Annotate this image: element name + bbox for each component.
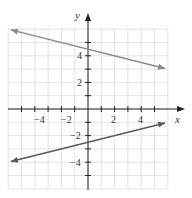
x-axis-label: x	[174, 113, 180, 125]
coordinate-plane: x y −4 −2 2 4 4 2 −2 −4	[0, 0, 192, 198]
y-tick-label: −4	[70, 157, 81, 168]
y-tick-label: 2	[77, 77, 82, 88]
y-tick-label: −2	[70, 130, 81, 141]
x-axis-arrow-icon	[177, 106, 185, 112]
y-axis-label: y	[74, 9, 80, 21]
x-tick-label: 2	[111, 114, 116, 125]
x-tick-label: −2	[61, 114, 72, 125]
x-tick-label: −4	[34, 114, 45, 125]
y-tick-label: 4	[77, 50, 82, 61]
x-tick-label: 4	[138, 114, 143, 125]
y-axis-arrow-icon	[85, 13, 91, 21]
